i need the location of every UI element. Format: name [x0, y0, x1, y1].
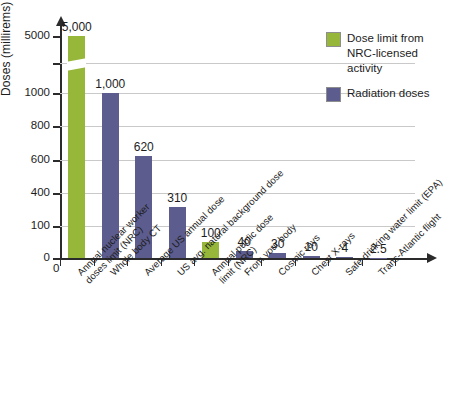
bar-value-label: 310 [155, 192, 199, 204]
legend-item-dose-limit: Dose limit from NRC-licensed activity [326, 31, 446, 77]
y-tick-label: 1000 [24, 87, 50, 99]
y-tick-label: 100 [31, 220, 50, 232]
radiation-dose-bar-chart: Doses (millirems) 500010008006004001000 … [0, 0, 449, 401]
y-axis-title: Doses (millirems) [0, 0, 13, 96]
bar-value-label: 5,000 [55, 21, 99, 33]
legend-swatch-green-icon [326, 32, 341, 47]
y-tick-label: 5000 [24, 30, 50, 42]
legend-swatch-purple-icon [326, 87, 341, 102]
y-tick-0 [53, 36, 61, 38]
x-tick-0 [60, 258, 61, 266]
axis-break-slash-icon [67, 58, 86, 71]
bar [336, 257, 353, 258]
y-tick-label: 600 [31, 154, 50, 166]
y-tick-label: 400 [31, 187, 50, 199]
bar-value-label: 620 [122, 141, 166, 153]
y-tick-label: 800 [31, 120, 50, 132]
bar-value-label: 1,000 [88, 78, 132, 90]
legend: Dose limit from NRC-licensed activity Ra… [326, 31, 446, 110]
y-axis-line [60, 24, 62, 259]
origin-label: 0 [53, 262, 59, 274]
legend-label-dose-limit: Dose limit from NRC-licensed activity [326, 31, 446, 77]
legend-label-radiation-doses: Radiation doses [326, 86, 446, 101]
y-tick-label: 0 [44, 252, 50, 264]
x-axis-arrow [427, 253, 437, 263]
bar [68, 36, 85, 258]
legend-item-radiation-doses: Radiation doses [326, 86, 446, 101]
